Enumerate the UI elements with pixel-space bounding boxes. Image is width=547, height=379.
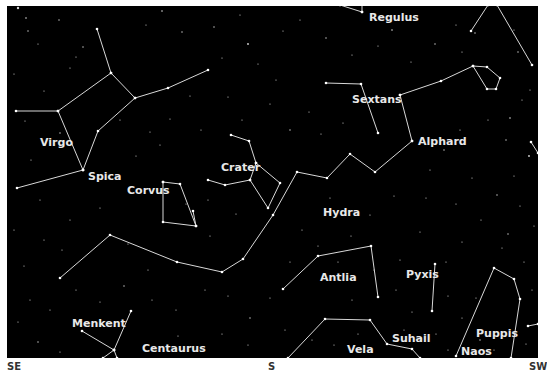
star-dot-icon bbox=[487, 119, 488, 120]
constellation-label-vela: Vela bbox=[347, 343, 374, 356]
constellation-star-icon bbox=[116, 357, 119, 360]
star-dot-icon bbox=[58, 19, 59, 20]
star-dot-icon bbox=[30, 159, 31, 160]
star-dot-icon bbox=[249, 317, 250, 318]
constellation-star-icon bbox=[97, 130, 100, 133]
constellation-star-icon bbox=[96, 28, 99, 31]
constellation-star-icon bbox=[317, 255, 320, 258]
star-dot-icon bbox=[241, 119, 242, 120]
star-dot-icon bbox=[39, 199, 40, 200]
constellation-star-icon bbox=[195, 225, 198, 228]
star-dot-icon bbox=[519, 205, 520, 206]
star-dot-icon bbox=[531, 289, 532, 290]
star-dot-icon bbox=[395, 289, 396, 290]
star-dot-icon bbox=[429, 169, 430, 170]
constellation-star-icon bbox=[510, 357, 513, 360]
constellation-star-icon bbox=[324, 318, 327, 321]
star-dot-icon bbox=[99, 301, 100, 302]
star-dot-icon bbox=[474, 32, 475, 33]
constellation-star-icon bbox=[470, 30, 473, 33]
constellation-star-icon bbox=[496, 4, 499, 7]
constellation-edge-right bbox=[530, 141, 540, 155]
star-dot-icon bbox=[24, 120, 25, 121]
constellation-star-icon bbox=[296, 171, 299, 174]
star-dot-icon bbox=[13, 229, 14, 230]
constellation-star-icon bbox=[537, 152, 540, 155]
constellation-star-icon bbox=[279, 182, 282, 185]
star-dot-icon bbox=[351, 299, 352, 300]
star-dot-icon bbox=[227, 295, 228, 296]
star-dot-icon bbox=[289, 129, 290, 130]
constellation-star-icon bbox=[374, 171, 377, 174]
star-dot-icon bbox=[181, 31, 182, 32]
constellation-star-icon bbox=[349, 153, 352, 156]
star-dot-icon bbox=[329, 197, 330, 198]
constellation-leo-right bbox=[470, 4, 534, 67]
star-dot-icon bbox=[337, 261, 338, 262]
star-dot-icon bbox=[17, 7, 19, 9]
constellation-star-icon bbox=[411, 348, 414, 351]
star-dot-icon bbox=[27, 30, 28, 31]
constellation-star-icon bbox=[207, 69, 210, 72]
direction-s: S bbox=[268, 361, 275, 372]
star-dot-icon bbox=[447, 295, 448, 296]
star-dot-icon bbox=[461, 241, 462, 242]
star-dot-icon bbox=[475, 297, 476, 298]
constellation-star-icon bbox=[15, 110, 18, 113]
star-dot-icon bbox=[461, 51, 462, 52]
star-dot-icon bbox=[480, 219, 481, 220]
star-dot-icon bbox=[161, 10, 163, 12]
star-dot-icon bbox=[529, 89, 530, 90]
constellation-label-centaurus: Centaurus bbox=[142, 342, 206, 355]
star-dot-icon bbox=[135, 155, 136, 156]
direction-sw: SW bbox=[529, 361, 547, 372]
star-dot-icon bbox=[149, 131, 150, 132]
constellation-label-puppis: Puppis bbox=[476, 327, 518, 340]
constellation-star-icon bbox=[370, 245, 373, 248]
constellation-label-corvus: Corvus bbox=[127, 184, 170, 197]
star-dot-icon bbox=[333, 344, 334, 345]
star-label-regulus: Regulus bbox=[369, 11, 419, 24]
constellation-label-virgo: Virgo bbox=[40, 136, 73, 149]
star-dot-icon bbox=[435, 333, 436, 334]
constellation-star-icon bbox=[167, 87, 170, 90]
constellation-star-icon bbox=[431, 310, 434, 313]
constellation-star-icon bbox=[287, 357, 290, 360]
constellation-star-icon bbox=[57, 110, 60, 113]
star-dot-icon bbox=[169, 118, 170, 119]
star-dot-icon bbox=[517, 51, 518, 52]
star-dot-icon bbox=[419, 231, 420, 232]
star-dot-icon bbox=[311, 339, 312, 340]
constellation-star-icon bbox=[230, 134, 233, 137]
constellation-star-icon bbox=[162, 181, 165, 184]
constellation-star-icon bbox=[179, 183, 182, 186]
star-dot-icon bbox=[461, 317, 462, 318]
star-label-spica: Spica bbox=[88, 170, 122, 183]
star-dot-icon bbox=[308, 111, 309, 112]
star-dot-icon bbox=[284, 329, 285, 330]
constellation-star-icon bbox=[386, 343, 389, 346]
star-dot-icon bbox=[69, 67, 70, 68]
constellation-star-icon bbox=[361, 3, 364, 6]
star-dot-icon bbox=[145, 24, 146, 25]
constellation-star-icon bbox=[134, 97, 137, 100]
constellation-star-icon bbox=[527, 325, 530, 328]
star-dot-icon bbox=[403, 329, 404, 330]
star-dot-icon bbox=[200, 129, 201, 130]
constellation-star-icon bbox=[513, 278, 516, 281]
star-label-naos: Naos bbox=[461, 345, 492, 358]
star-dot-icon bbox=[342, 122, 343, 123]
star-dot-icon bbox=[369, 214, 370, 215]
star-label-alphard: Alphard bbox=[418, 135, 467, 148]
star-dot-icon bbox=[221, 57, 222, 58]
star-dot-icon bbox=[99, 207, 100, 208]
constellation-star-icon bbox=[272, 214, 275, 217]
constellation-star-icon bbox=[249, 179, 252, 182]
constellation-star-icon bbox=[176, 261, 179, 264]
constellation-star-icon bbox=[419, 357, 422, 360]
star-dot-icon bbox=[159, 144, 160, 145]
star-dot-icon bbox=[289, 261, 290, 262]
star-dot-icon bbox=[213, 26, 214, 27]
constellation-star-icon bbox=[282, 288, 285, 291]
star-dot-icon bbox=[75, 56, 76, 57]
